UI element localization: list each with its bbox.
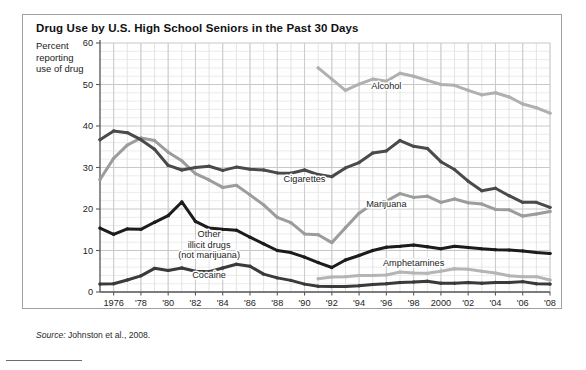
- data-point: [316, 277, 319, 280]
- data-point: [439, 247, 442, 250]
- data-point: [521, 280, 524, 283]
- data-point: [494, 271, 497, 274]
- data-point: [221, 186, 224, 189]
- data-point: [412, 271, 415, 274]
- data-point: [494, 281, 497, 284]
- data-point: [262, 272, 265, 275]
- data-point: [412, 280, 415, 283]
- data-point: [316, 261, 319, 264]
- data-point: [507, 194, 510, 197]
- series-cigarettes: [98, 129, 551, 209]
- data-point: [398, 72, 401, 75]
- data-point: [480, 270, 483, 273]
- data-point: [303, 282, 306, 285]
- y-axis-tick-label: 30: [83, 163, 93, 173]
- data-point: [426, 280, 429, 283]
- series-label: illicit drugs: [188, 240, 231, 250]
- data-point: [480, 189, 483, 192]
- footer-rule: [6, 360, 82, 361]
- data-point: [303, 168, 306, 171]
- data-point: [466, 246, 469, 249]
- data-point: [535, 282, 538, 285]
- data-point: [166, 269, 169, 272]
- data-point: [262, 168, 265, 171]
- x-axis-tick-label: '86: [244, 298, 256, 308]
- x-axis-tick-label: '08: [544, 298, 556, 308]
- series-label: Marijuana: [366, 199, 407, 209]
- data-point: [357, 82, 360, 85]
- source-label: Source:: [36, 330, 66, 340]
- data-point: [371, 274, 374, 277]
- data-point: [535, 212, 538, 215]
- data-point: [426, 194, 429, 197]
- x-axis-tick-label: '96: [380, 298, 392, 308]
- data-point: [426, 79, 429, 82]
- series-label: Cocaine: [192, 270, 226, 280]
- data-point: [98, 226, 101, 229]
- y-axis-tick-label: 10: [83, 246, 93, 256]
- data-point: [548, 252, 551, 255]
- data-point: [412, 243, 415, 246]
- x-axis-tick-label: '84: [217, 298, 229, 308]
- data-point: [412, 196, 415, 199]
- data-point: [180, 200, 183, 203]
- source-value: Johnston et al., 2008.: [66, 330, 151, 340]
- data-point: [276, 171, 279, 174]
- y-axis-tick-label: 60: [83, 38, 93, 48]
- data-point: [330, 285, 333, 288]
- data-point: [357, 274, 360, 277]
- data-point: [139, 274, 142, 277]
- source-note: Source: Johnston et al., 2008.: [36, 330, 150, 340]
- data-point: [344, 285, 347, 288]
- data-point: [494, 91, 497, 94]
- data-point: [153, 267, 156, 270]
- data-point: [139, 228, 142, 231]
- x-axis-tick-label: '94: [353, 298, 365, 308]
- data-point: [194, 172, 197, 175]
- data-point: [466, 201, 469, 204]
- data-point: [453, 282, 456, 285]
- data-point: [248, 265, 251, 268]
- data-point: [98, 138, 101, 141]
- series-label: Other: [198, 229, 221, 239]
- data-point: [535, 275, 538, 278]
- x-axis-tick-label: 1976: [103, 298, 123, 308]
- data-point: [548, 210, 551, 213]
- y-axis-tick-label: 40: [83, 121, 93, 131]
- data-point: [330, 266, 333, 269]
- data-point: [180, 159, 183, 162]
- data-point: [507, 95, 510, 98]
- data-point: [385, 245, 388, 248]
- data-point: [235, 165, 238, 168]
- data-point: [521, 201, 524, 204]
- data-point: [112, 233, 115, 236]
- data-point: [357, 254, 360, 257]
- data-point: [289, 251, 292, 254]
- series-alcohol: [316, 66, 551, 115]
- data-point: [126, 278, 129, 281]
- data-point: [466, 267, 469, 270]
- data-point: [507, 281, 510, 284]
- data-point: [194, 166, 197, 169]
- data-point: [207, 165, 210, 168]
- figure-page: Drug Use by U.S. High School Seniors in …: [0, 0, 586, 370]
- data-point: [344, 226, 347, 229]
- data-point: [398, 281, 401, 284]
- data-point: [426, 245, 429, 248]
- data-point: [126, 131, 129, 134]
- data-point: [480, 202, 483, 205]
- y-axis-tick-label: 50: [83, 80, 93, 90]
- data-point: [330, 275, 333, 278]
- data-point: [248, 193, 251, 196]
- x-axis-tick-label: '98: [408, 298, 420, 308]
- data-point: [166, 214, 169, 217]
- y-axis-tick-label: 20: [83, 204, 93, 214]
- grid: [100, 43, 550, 292]
- data-point: [453, 197, 456, 200]
- data-point: [357, 211, 360, 214]
- data-point: [316, 284, 319, 287]
- series-line: [318, 68, 550, 113]
- x-axis-tick-label: '80: [162, 298, 174, 308]
- data-point: [466, 281, 469, 284]
- series-label: Cigarettes: [284, 174, 326, 184]
